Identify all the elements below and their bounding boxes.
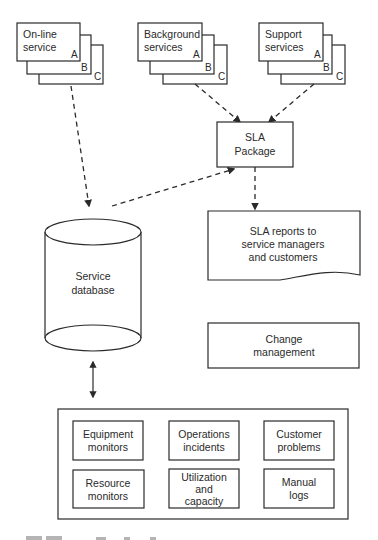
support-services-title-2: services bbox=[265, 41, 304, 53]
background-services-title-2: services bbox=[144, 41, 183, 53]
sla-reports-line1: SLA reports to bbox=[250, 225, 317, 237]
background-services-title-1: Background bbox=[144, 28, 200, 40]
online-service-stack: C B A On-line service bbox=[17, 23, 103, 84]
online-service-tag-a: A bbox=[71, 49, 78, 60]
online-service-title-2: service bbox=[23, 41, 56, 53]
source-utilization-line3: capacity bbox=[185, 495, 224, 507]
sla-reports-line2: service managers bbox=[242, 238, 325, 250]
arrow-support-to-sla bbox=[269, 84, 314, 122]
sla-package-line1: SLA bbox=[245, 131, 265, 143]
source-customer-line2: problems bbox=[277, 441, 320, 453]
database-line2: database bbox=[71, 284, 114, 296]
online-service-tag-c: C bbox=[94, 71, 101, 82]
source-equipment-line2: monitors bbox=[88, 441, 128, 453]
change-management-line1: Change bbox=[266, 333, 303, 345]
support-services-tag-c: C bbox=[336, 71, 343, 82]
sla-reports-document: SLA reports to service managers and cust… bbox=[208, 211, 360, 280]
source-resource-monitors bbox=[73, 470, 144, 508]
database-line1: Service bbox=[75, 270, 110, 282]
source-resource-line2: monitors bbox=[88, 490, 128, 502]
source-equipment-line1: Equipment bbox=[83, 428, 133, 440]
source-utilization-line1: Utilization bbox=[181, 471, 227, 483]
support-services-tag-a: A bbox=[314, 49, 321, 60]
online-service-tag-b: B bbox=[81, 62, 88, 73]
arrow-database-to-sla bbox=[112, 169, 234, 206]
source-utilization-line2: and bbox=[195, 483, 213, 495]
sla-package-box: SLA Package bbox=[217, 122, 293, 167]
background-services-tag-a: A bbox=[193, 49, 200, 60]
change-management-box: Change management bbox=[208, 323, 359, 368]
background-services-tag-c: C bbox=[218, 71, 225, 82]
arrow-online-to-database bbox=[71, 86, 89, 206]
sla-reports-line3: and customers bbox=[249, 251, 318, 263]
source-operations-line2: incidents bbox=[183, 441, 224, 453]
change-management-line2: management bbox=[253, 346, 314, 358]
support-services-title-1: Support bbox=[265, 28, 302, 40]
arrow-background-to-sla bbox=[195, 84, 240, 122]
sla-package-line2: Package bbox=[235, 145, 276, 157]
data-sources-panel: Equipment monitors Operations incidents … bbox=[58, 409, 348, 519]
source-manual-line1: Manual bbox=[282, 476, 316, 488]
source-resource-line1: Resource bbox=[86, 477, 131, 489]
online-service-title-1: On-line bbox=[23, 28, 57, 40]
background-services-tag-b: B bbox=[205, 62, 212, 73]
source-operations-line1: Operations bbox=[178, 428, 229, 440]
service-database-cylinder: Service database bbox=[45, 219, 141, 351]
support-services-stack: C B A Support services bbox=[259, 23, 345, 84]
caption-fragment bbox=[26, 536, 156, 540]
source-manual-line2: logs bbox=[289, 489, 308, 501]
support-services-tag-b: B bbox=[323, 62, 330, 73]
background-services-stack: C B A Background services bbox=[138, 23, 227, 84]
source-customer-line1: Customer bbox=[276, 428, 322, 440]
database-top bbox=[45, 219, 141, 245]
